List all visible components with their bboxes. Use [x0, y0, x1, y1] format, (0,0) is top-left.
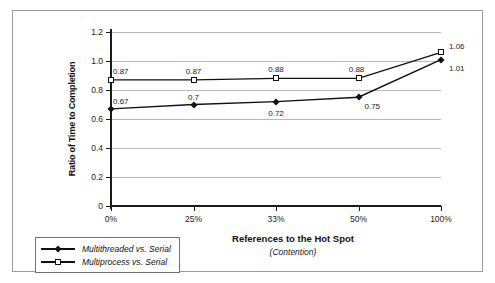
- x-axis-title: References to the Hot Spot (Contention): [193, 233, 393, 257]
- series-markers: 0.670.70.720.751.010.870.870.880.881.06: [111, 32, 441, 206]
- legend-item-multithreaded: Multithreaded vs. Serial: [41, 242, 171, 255]
- y-axis-tick-label: 0.6: [91, 114, 103, 124]
- data-point-square: [438, 49, 444, 55]
- chart-figure: Ratio of Time to Completion 00.20.40.60.…: [12, 10, 483, 272]
- x-axis-tick: [194, 206, 195, 211]
- legend-marker-filled-diamond-icon: [41, 243, 75, 254]
- y-axis-tick-label: 1.2: [91, 27, 103, 37]
- chart-legend: Multithreaded vs. Serial Multiprocess vs…: [35, 237, 180, 273]
- data-point-label: 0.87: [186, 67, 202, 76]
- x-axis-subtitle-text: (Contention): [193, 247, 393, 257]
- data-point-diamond: [355, 94, 362, 101]
- x-axis-tick-label: 0%: [105, 214, 117, 224]
- data-point-diamond: [437, 56, 444, 63]
- y-axis-tick-label: 1.0: [91, 56, 103, 66]
- data-point-diamond: [107, 105, 114, 112]
- data-point-square: [108, 77, 114, 83]
- data-point-diamond: [272, 98, 279, 105]
- data-point-label: 0.7: [188, 93, 199, 102]
- data-point-label: 0.72: [268, 109, 284, 118]
- data-point-label: 0.87: [113, 67, 129, 76]
- legend-label: Multithreaded vs. Serial: [82, 244, 171, 254]
- y-axis-tick-label: 0: [98, 201, 103, 211]
- data-point-square: [356, 75, 362, 81]
- y-axis-tick-label: 0.8: [91, 85, 103, 95]
- y-axis-tick-label: 0.4: [91, 143, 103, 153]
- x-axis-tick: [359, 206, 360, 211]
- data-point-label: 1.01: [449, 64, 465, 73]
- data-point-square: [273, 75, 279, 81]
- data-point-square: [191, 77, 197, 83]
- y-axis-title: Ratio of Time to Completion: [65, 32, 79, 206]
- data-point-label: 1.06: [449, 42, 465, 51]
- x-axis-tick-label: 100%: [430, 214, 452, 224]
- data-point-label: 0.67: [113, 97, 129, 106]
- x-axis-tick-label: 33%: [267, 214, 284, 224]
- y-axis-tick-label: 0.2: [91, 172, 103, 182]
- legend-marker-open-square-icon: [41, 256, 75, 267]
- x-axis-tick-label: 25%: [185, 214, 202, 224]
- x-axis-tick-label: 50%: [350, 214, 367, 224]
- data-point-diamond: [190, 101, 197, 108]
- x-axis-tick: [276, 206, 277, 211]
- data-point-label: 0.88: [349, 65, 365, 74]
- x-axis-tick: [441, 206, 442, 211]
- legend-label: Multiprocess vs. Serial: [82, 257, 167, 267]
- data-point-label: 0.88: [268, 65, 284, 74]
- x-axis-title-text: References to the Hot Spot: [193, 233, 393, 244]
- y-axis-title-text: Ratio of Time to Completion: [67, 62, 77, 176]
- plot-area: 00.20.40.60.81.01.2 0%25%33%50%100% 0.67…: [111, 32, 441, 206]
- data-point-label: 0.75: [365, 102, 381, 111]
- x-axis-tick: [111, 206, 112, 211]
- legend-item-multiprocess: Multiprocess vs. Serial: [41, 255, 171, 268]
